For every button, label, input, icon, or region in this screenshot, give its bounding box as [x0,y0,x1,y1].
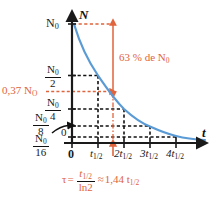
fraction-n0-16-denominator: 16 [33,146,49,158]
fraction-n0-16-num-sub: 0 [43,137,47,146]
tau-value-annotation: 0,37 NO [2,85,37,98]
x-tick-label-3: 3t1/2 [140,148,158,161]
x-tick-label-1-sub: 1/2 [93,152,103,161]
fraction-n0-8-num-sub: 0 [43,116,47,125]
decay-curve-figure: N t N0 N0 2 N0 4 N0 8 N0 16 0 0 [0,0,221,199]
tau-fraction-numerator: t1/2 [77,168,95,181]
x-tick-label-3-main: 3t [140,147,149,159]
x-tick-label-0-main: 0 [68,147,74,161]
x-tick-label-4-main: 4t [166,147,175,159]
y-tick-label-n0-main: N [46,16,55,30]
x-tick-label-2-sub: 1/2 [123,152,133,161]
fraction-n0-8-numerator: N0 [33,112,49,125]
y-axis-label: N [79,8,88,21]
tau-result-main: 1,44 t [105,173,130,185]
tau-fraction-num-sub: 1/2 [82,172,92,181]
tau-formula: τ= t1/2 ln2 ≈1,44 t1/2 [62,168,139,193]
fraction-n0-16-num-main: N [35,132,43,144]
x-tick-label-4: 4t1/2 [166,148,184,161]
y-tick-label-n0: N0 [46,17,59,31]
fraction-n0-2-numerator: N0 [45,64,61,77]
percent-annotation-sub: 0 [166,56,170,65]
fraction-n0-2-denominator: 2 [45,77,61,89]
x-tick-label-1: t1/2 [90,148,103,161]
y-tick-label-n0-16: N0 16 [33,133,49,158]
fraction-n0-4-num-main: N [47,96,55,108]
percent-annotation: 63 % de N0 [119,52,169,65]
percent-annotation-main: 63 % de N [119,51,166,63]
fraction-n0-16: N0 16 [33,133,49,158]
x-tick-label-0: 0 [68,148,74,160]
x-tick-label-4-sub: 1/2 [175,152,185,161]
fraction-n0-8-num-main: N [35,111,43,123]
x-tick-label-3-sub: 1/2 [149,152,159,161]
tau-equals: = [67,173,73,185]
axes [64,20,198,143]
origin-label-inner: 0 [61,127,67,138]
tau-value-annotation-sub: O [32,89,37,98]
tau-value-annotation-main: 0,37 N [2,84,32,96]
tau-fraction: t1/2 ln2 [77,168,95,193]
tau-symbol: τ [62,173,66,185]
x-tick-label-2: 2t1/2 [114,148,132,161]
fraction-n0-2-num-main: N [47,63,55,75]
decay-curve [74,24,205,140]
fraction-n0-2-num-sub: 0 [55,68,59,77]
y-tick-label-n0-2: N0 2 [45,64,61,89]
fraction-n0-2: N0 2 [45,64,61,89]
x-tick-label-2-main: 2t [114,147,123,159]
fraction-n0-4-num-sub: 0 [55,101,59,110]
y-tick-label-n0-sub: 0 [55,22,59,31]
tau-result-sub: 1/2 [130,178,140,187]
fraction-n0-4-numerator: N0 [45,97,61,110]
x-axis-label: t [202,126,206,139]
fraction-n0-16-numerator: N0 [33,133,49,146]
tau-fraction-denominator: ln2 [77,181,95,193]
tau-approx: ≈ [98,173,104,185]
